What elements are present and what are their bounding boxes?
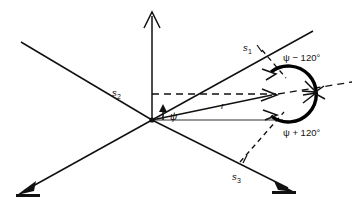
axis-line-s3 [152,120,288,188]
axis-line-s3-negative [21,42,152,120]
angle-label-psi-plus-120: ψ + 120° [283,128,320,138]
angle-label-psi: ψ [170,112,177,122]
origin-point [149,117,154,122]
axis-label-s3: s3 [232,172,241,182]
tick-mark-s1 [257,45,262,52]
diagram-canvas [0,0,361,213]
arrowhead-lower-right [272,181,296,194]
vector-label-r: r [221,101,224,111]
axis-label-s2: s2 [112,88,121,98]
axis-line-s1 [152,31,313,120]
tick-mark-s3 [243,155,247,163]
vector-diagram-figure: s1 s2 s3 r ψ ψ − 120° ψ + 120° [0,0,361,213]
angle-label-psi-minus-120: ψ − 120° [283,53,320,63]
axis-label-s1: s1 [243,43,252,53]
axis-line-s1-negative [24,120,152,191]
